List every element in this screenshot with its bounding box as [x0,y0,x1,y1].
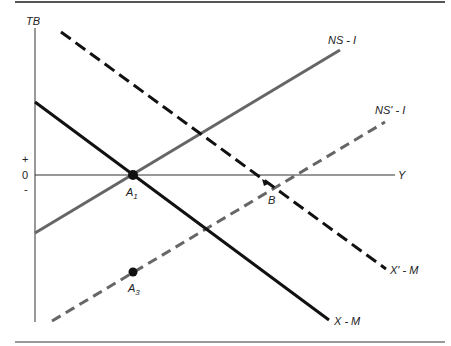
ns-i-label: NS - I [328,34,356,46]
x-prime-m-label: X' - M [389,264,419,276]
point-a1-marker [128,170,138,180]
minus-sign: - [24,183,28,195]
point-b-label: B [268,194,275,206]
point-a1-label: A1 [125,186,138,201]
x-m-label: X - M [333,315,361,327]
plus-sign: + [22,153,28,165]
zero-label: 0 [22,169,28,181]
ns-prime-i-label: NS' - I [375,104,405,116]
ns-i-curve [35,50,340,233]
point-a3-label: A3 [127,282,140,297]
point-a3-marker [129,268,138,277]
x-prime-m-curve [61,32,386,269]
x-axis-label: Y [398,169,406,181]
trade-balance-diagram: TB Y + 0 - NS - I NS' - I X - M X' - M A… [0,0,451,346]
y-axis-label: TB [26,15,40,27]
x-m-curve [35,102,329,320]
